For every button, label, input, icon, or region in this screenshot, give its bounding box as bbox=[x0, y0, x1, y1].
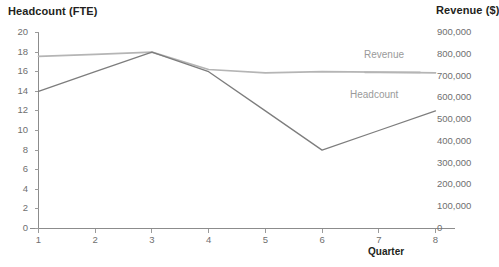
right-axis-tick-label: 900,000 bbox=[437, 26, 471, 37]
left-axis-tick-label: 16 bbox=[6, 65, 28, 76]
right-axis-tick-label: 400,000 bbox=[437, 135, 471, 146]
x-axis-tick-label: 4 bbox=[199, 234, 219, 245]
left-axis-tick-label: 20 bbox=[6, 26, 28, 37]
right-axis-tick-label: 700,000 bbox=[437, 70, 471, 81]
x-axis-tick-label: 1 bbox=[29, 234, 49, 245]
series-line-headcount bbox=[39, 52, 436, 150]
left-axis-tick-label: 10 bbox=[6, 124, 28, 135]
series-label-headcount: Headcount bbox=[350, 89, 398, 100]
left-axis-tick-label: 6 bbox=[6, 163, 28, 174]
x-axis-tick-label: 2 bbox=[85, 234, 105, 245]
x-axis-tick-label: 6 bbox=[312, 234, 332, 245]
right-axis-tick-label: 600,000 bbox=[437, 91, 471, 102]
left-axis-tick-label: 4 bbox=[6, 183, 28, 194]
left-axis-tick-label: 12 bbox=[6, 104, 28, 115]
left-axis-tick-label: 18 bbox=[6, 46, 28, 57]
right-axis-tick-label: 100,000 bbox=[437, 200, 471, 211]
right-axis-tick-label: 800,000 bbox=[437, 48, 471, 59]
left-axis-tick-label: 2 bbox=[6, 202, 28, 213]
x-axis-tick-label: 7 bbox=[369, 234, 389, 245]
right-axis-tick-label: 500,000 bbox=[437, 113, 471, 124]
series-lines bbox=[39, 52, 436, 150]
right-axis-tick-label: 0 bbox=[437, 222, 442, 233]
series-label-revenue: Revenue bbox=[364, 49, 404, 60]
x-axis-tick-label: 8 bbox=[426, 234, 446, 245]
right-axis-tick-label: 300,000 bbox=[437, 157, 471, 168]
left-axis-tick-label: 0 bbox=[6, 222, 28, 233]
tick-marks bbox=[35, 33, 436, 233]
left-axis-tick-label: 14 bbox=[6, 85, 28, 96]
left-axis-tick-label: 8 bbox=[6, 144, 28, 155]
x-axis-tick-label: 3 bbox=[142, 234, 162, 245]
x-axis-tick-label: 5 bbox=[255, 234, 275, 245]
axis-lines bbox=[30, 32, 456, 229]
x-axis-title: Quarter bbox=[368, 246, 404, 257]
right-axis-tick-label: 200,000 bbox=[437, 178, 471, 189]
